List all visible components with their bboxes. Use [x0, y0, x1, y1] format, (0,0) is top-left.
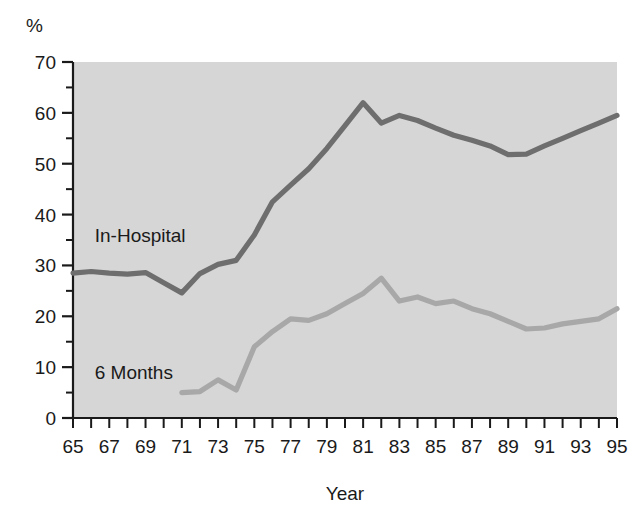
x-axis-title: Year — [326, 483, 365, 504]
x-tick-label: 93 — [570, 436, 591, 457]
x-tick-label: 81 — [353, 436, 374, 457]
y-tick-label: 20 — [35, 306, 56, 327]
x-tick-label: 85 — [425, 436, 446, 457]
y-tick-label: 30 — [35, 255, 56, 276]
y-tick-label: 50 — [35, 154, 56, 175]
x-tick-label: 73 — [207, 436, 228, 457]
y-axis-tick-labels: 010203040506070 — [35, 52, 56, 429]
y-tick-label: 70 — [35, 52, 56, 73]
x-tick-label: 67 — [99, 436, 120, 457]
x-tick-label: 89 — [498, 436, 519, 457]
x-tick-label: 65 — [62, 436, 83, 457]
x-axis-ticks — [73, 418, 617, 428]
chart-page: % 010203040506070 6567697173757779818385… — [0, 0, 633, 521]
x-tick-label: 77 — [280, 436, 301, 457]
x-tick-label: 69 — [135, 436, 156, 457]
series-label-2: 6 Months — [95, 362, 173, 383]
y-axis-unit-label: % — [26, 15, 43, 36]
x-tick-label: 87 — [461, 436, 482, 457]
x-tick-label: 95 — [606, 436, 627, 457]
x-axis-tick-labels: 65676971737577798183858789919395 — [62, 436, 627, 457]
x-tick-label: 79 — [316, 436, 337, 457]
y-tick-label: 60 — [35, 103, 56, 124]
y-tick-label: 0 — [45, 408, 56, 429]
x-tick-label: 83 — [389, 436, 410, 457]
line-chart: % 010203040506070 6567697173757779818385… — [0, 0, 633, 521]
y-tick-label: 40 — [35, 205, 56, 226]
series-label-1: In-Hospital — [95, 225, 186, 246]
x-tick-label: 91 — [534, 436, 555, 457]
y-tick-label: 10 — [35, 357, 56, 378]
x-tick-label: 71 — [171, 436, 192, 457]
x-tick-label: 75 — [244, 436, 265, 457]
